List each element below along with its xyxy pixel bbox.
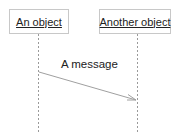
- object-box-another-object[interactable]: Another object: [99, 9, 171, 34]
- message-label[interactable]: A message: [61, 58, 118, 70]
- message-arrow: [39, 72, 136, 100]
- object-label: An object: [16, 16, 62, 28]
- object-box-an-object[interactable]: An object: [9, 9, 69, 34]
- object-label: Another object: [100, 16, 171, 28]
